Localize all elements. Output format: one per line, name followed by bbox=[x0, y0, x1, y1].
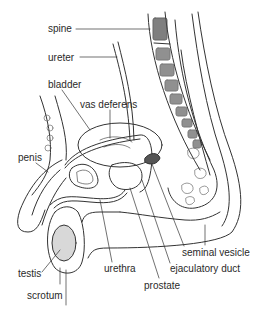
back-inner-outline bbox=[192, 14, 229, 226]
leader-penis bbox=[36, 163, 48, 172]
abdominal-wall-inner bbox=[55, 96, 66, 160]
disc-1 bbox=[154, 43, 170, 44]
label-scrotum: scrotum bbox=[27, 290, 63, 301]
label-bladder: bladder bbox=[48, 79, 81, 90]
seminal-vesicle-gland bbox=[145, 154, 160, 165]
label-penis: penis bbox=[18, 152, 42, 163]
pubic-symphysis-inner bbox=[77, 170, 93, 184]
label-testis: testis bbox=[18, 268, 41, 279]
ureter-line-2 bbox=[118, 42, 134, 140]
ureter-line-1 bbox=[113, 44, 130, 140]
urethra-tube-2 bbox=[54, 193, 127, 208]
perineum-line bbox=[120, 212, 220, 220]
leader-urethra bbox=[100, 200, 112, 262]
label-urethra: urethra bbox=[104, 263, 136, 274]
pubic-bone-texture bbox=[44, 115, 53, 151]
abdominal-wall-outer bbox=[32, 96, 51, 195]
label-spine: spine bbox=[48, 23, 72, 34]
pubic-symphysis bbox=[69, 164, 98, 188]
label-seminal-vesicle: seminal vesicle bbox=[182, 247, 250, 258]
leader-testis bbox=[42, 250, 60, 272]
leader-bladder bbox=[62, 90, 90, 130]
label-ejaculatory-duct: ejaculatory duct bbox=[170, 263, 240, 274]
anatomy-diagram: spine ureter bladder vas deferens penis … bbox=[0, 0, 255, 319]
label-prostate: prostate bbox=[144, 280, 180, 291]
groin-line bbox=[82, 212, 120, 222]
leader-ejaculatory-duct bbox=[142, 180, 170, 263]
label-ureter: ureter bbox=[48, 52, 74, 63]
label-vas-deferens: vas deferens bbox=[80, 99, 137, 110]
